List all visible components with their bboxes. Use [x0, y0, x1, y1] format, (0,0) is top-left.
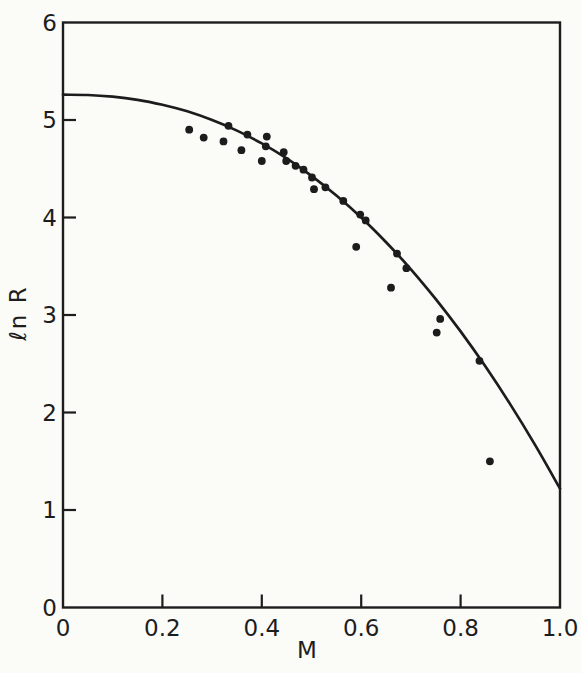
x-tick-label: 0.2: [144, 615, 181, 641]
data-point: [433, 329, 441, 337]
data-point: [393, 250, 401, 258]
data-point: [280, 148, 288, 156]
data-point: [322, 183, 330, 191]
y-tick-label: 2: [42, 400, 57, 426]
data-point: [225, 122, 233, 130]
plot-frame: [63, 23, 560, 608]
y-tick-label: 3: [42, 302, 57, 328]
data-point: [310, 185, 318, 193]
y-axis-label: ℓn R: [5, 285, 31, 341]
data-point: [263, 133, 271, 141]
y-tick-label: 6: [42, 10, 57, 36]
data-point: [200, 134, 208, 142]
data-point: [339, 197, 347, 205]
x-tick-label: 0: [56, 615, 71, 641]
data-point: [486, 457, 494, 465]
data-point: [352, 243, 360, 251]
y-tick-label: 0: [42, 595, 57, 621]
data-point: [403, 264, 411, 272]
axis-tick-labels: 00.20.40.60.81.00123456: [42, 10, 578, 641]
x-tick-label: 0.4: [244, 615, 281, 641]
data-point: [262, 142, 270, 150]
data-point: [308, 174, 316, 182]
data-point: [476, 357, 484, 365]
chart-canvas: 00.20.40.60.81.00123456 M ℓn R: [0, 0, 581, 673]
y-tick-label: 1: [42, 497, 57, 523]
x-tick-label: 1.0: [542, 615, 579, 641]
data-point: [292, 162, 300, 170]
axis-tick-marks: [63, 120, 461, 608]
data-point: [387, 284, 395, 292]
x-tick-label: 0.6: [343, 615, 380, 641]
data-point: [220, 138, 228, 146]
data-point: [436, 315, 444, 323]
data-point: [258, 157, 266, 165]
x-tick-label: 0.8: [442, 615, 479, 641]
data-point: [244, 131, 252, 139]
data-points-layer: [185, 122, 494, 465]
data-point: [356, 211, 364, 219]
y-tick-label: 5: [42, 107, 57, 133]
scatter-plot-figure: 00.20.40.60.81.00123456 M ℓn R: [0, 0, 581, 673]
data-point: [185, 126, 193, 134]
fitted-curve-layer: [63, 95, 560, 489]
data-point: [362, 217, 370, 225]
data-point: [282, 157, 290, 165]
x-axis-label: M: [297, 637, 319, 663]
y-tick-label: 4: [42, 205, 57, 231]
data-point: [300, 166, 308, 174]
data-point: [238, 146, 246, 154]
fitted-curve: [63, 95, 560, 489]
